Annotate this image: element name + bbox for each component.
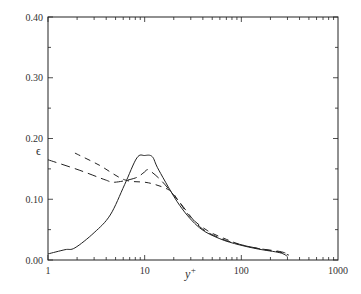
plot-frame [48,17,338,260]
y-tick-label: 0.20 [26,133,44,144]
y-tick-label: 0.40 [26,12,44,23]
x-tick-label: 1 [46,265,51,276]
series-solid [48,155,287,256]
tick-labels: 11010010000.000.100.200.300.40 [26,12,349,277]
x-tick-label: 100 [234,265,249,276]
series-long-dash [48,160,287,254]
x-axis-label: y+ [184,265,196,281]
chart: 11010010000.000.100.200.300.40 ϵ y+ [0,0,361,294]
series-short-dash [75,153,289,255]
y-tick-label: 0.10 [26,194,44,205]
y-tick-label: 0.30 [26,72,44,83]
y-tick-label: 0.00 [26,255,44,266]
axis-ticks [48,17,338,260]
x-tick-label: 10 [140,265,150,276]
data-series [48,153,289,256]
y-axis-label: ϵ [36,144,41,158]
x-tick-label: 1000 [328,265,348,276]
